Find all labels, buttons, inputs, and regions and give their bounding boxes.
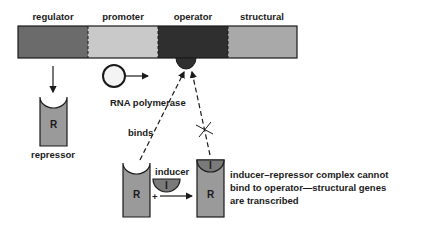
- caption-line-2: bind to operator—structural genes: [230, 182, 386, 193]
- inducer-symbol: I: [209, 160, 212, 171]
- promoter-label: promoter: [102, 11, 144, 22]
- regulator-label: regulator: [32, 11, 73, 22]
- structural-segment: [228, 26, 297, 58]
- lac-operon-diagram: regulator promoter operator structural R…: [0, 0, 423, 229]
- blocked-x-icon: [196, 122, 213, 137]
- free-repressor-shape: R: [123, 163, 150, 217]
- rna-polymerase-icon: [103, 65, 125, 87]
- repressor-shape: R: [40, 97, 67, 146]
- promoter-segment: [88, 26, 158, 58]
- operator-label: operator: [174, 11, 213, 22]
- structural-label: structural: [240, 11, 284, 22]
- operator-binding-site: [176, 58, 196, 69]
- inducer-label: inducer: [155, 166, 190, 177]
- caption-line-1: inducer–repressor complex cannot: [230, 169, 389, 180]
- operator-segment: [158, 26, 228, 58]
- caption-line-3: are transcribed: [230, 195, 299, 206]
- blocked-dashed-arrow: [192, 72, 210, 155]
- repressor-label: repressor: [31, 149, 75, 160]
- inducer-symbol: I: [165, 180, 168, 191]
- repressor-symbol: R: [207, 189, 215, 200]
- rna-polymerase-label: RNA polymerase: [110, 97, 186, 108]
- regulator-segment: [18, 26, 88, 58]
- repressor-symbol: R: [133, 189, 141, 200]
- binds-label: binds: [128, 127, 153, 138]
- inducer-repressor-complex: I R: [197, 160, 224, 217]
- dna-bar: [18, 26, 297, 69]
- repressor-symbol: R: [50, 119, 58, 130]
- binds-dashed-arrow: [140, 72, 184, 160]
- plus-sign: +: [152, 191, 158, 202]
